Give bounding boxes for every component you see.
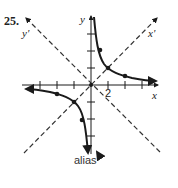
graph-figure: 25. y' y x' x 2 alias [0, 0, 178, 188]
curve-quadrant-1 [94, 17, 156, 81]
curve-quadrant-3 [26, 89, 88, 153]
y-prime-label: y' [22, 28, 29, 39]
point-marker [106, 66, 111, 71]
x-prime-label: x' [148, 28, 155, 39]
problem-number: 25. [4, 15, 19, 27]
point-marker [98, 48, 103, 53]
point-marker [80, 118, 85, 123]
x-axis-label: x [152, 90, 157, 101]
tick-label-2: 2 [105, 88, 111, 99]
caption: alias [74, 155, 97, 166]
point-marker [123, 74, 128, 79]
y-axis-label: y [80, 14, 85, 25]
point-marker [55, 92, 60, 97]
point-marker [72, 100, 77, 105]
origin-point [89, 83, 93, 87]
